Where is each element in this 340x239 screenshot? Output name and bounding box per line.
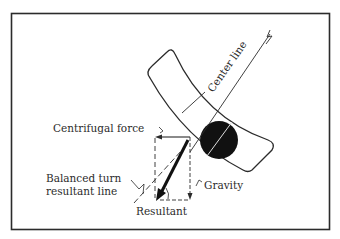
- resultant-label: Resultant: [136, 205, 188, 217]
- resultant-arrowhead-icon: [156, 188, 166, 201]
- balanced-turn-label-line1: Balanced turn: [46, 172, 122, 184]
- angle-mark-icon: [166, 188, 169, 199]
- centrifugal-force-label: Centrifugal force: [53, 122, 144, 134]
- force-diagram: Center line Centrifugal force Balanced t…: [0, 0, 340, 239]
- centrifugal-leader-icon: [159, 127, 163, 133]
- center-line-leader-icon: [266, 30, 272, 44]
- balanced-turn-label-line2: resultant line: [46, 185, 117, 197]
- center-line-label: Center line: [205, 39, 249, 95]
- gravity-label: Gravity: [204, 179, 243, 191]
- balanced-turn-leader-icon: [131, 180, 144, 194]
- resultant-arrow: [161, 140, 188, 193]
- centrifugal-arrowhead-icon: [155, 135, 162, 140]
- gravity-arrowhead-icon: [188, 193, 193, 200]
- gravity-leader-icon: [196, 180, 202, 186]
